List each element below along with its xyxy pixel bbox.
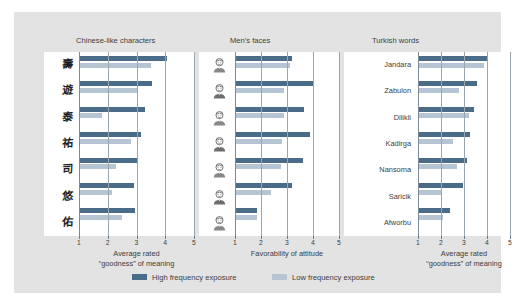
gridline-5 [339,52,340,236]
gridline-1 [418,52,419,236]
bar-high-frequency [79,183,134,188]
tick-label-2: 2 [106,239,110,246]
legend-swatch-low-frequency [272,274,287,280]
x-axis-ticks: 12345 [235,236,339,248]
gridline-3 [464,52,465,236]
tick-label-4: 4 [311,239,315,246]
tick-label-2: 2 [259,239,263,246]
x-axis-title-line1: Favorability of attitude [235,249,339,259]
chinese-character-icon: 悠 [62,190,74,202]
bar-low-frequency [418,139,453,144]
bar-high-frequency [418,132,470,137]
bar-low-frequency [418,164,457,169]
gridline-4 [487,52,488,236]
tick-label-1: 1 [416,239,420,246]
face-portrait-icon [211,109,228,126]
tick-label-4: 4 [485,239,489,246]
category-label-nansoma: Nansoma [379,165,411,174]
category-label-saricik: Saricik [389,192,411,201]
bar-high-frequency [418,81,477,86]
panel-mens-faces [199,52,339,236]
bar-high-frequency [79,56,167,61]
bar-low-frequency [418,63,484,68]
chinese-character-icon: 遊 [62,85,74,97]
gridline-3 [287,52,288,236]
panel-turkish-words: JandaraZabulonDilikliKadirgaNansomaSaric… [344,52,510,236]
face-portrait-icon [211,188,228,205]
category-label-jandara: Jandara [384,60,411,69]
face-portrait-icon [211,56,228,73]
plot-area-turkish [418,52,510,236]
bar-low-frequency [79,164,116,169]
bar-high-frequency [418,56,488,61]
gridline-2 [261,52,262,236]
x-axis-ticks: 12345 [79,236,194,248]
x-axis-title-line2: “goodness” of meaning [418,259,510,269]
bar-low-frequency [418,190,441,195]
bar-low-frequency [235,139,282,144]
bar-low-frequency [235,190,271,195]
face-portrait-icon [211,161,228,178]
tick-label-4: 4 [163,239,167,246]
panel-title-turkish-words: Turkish words [372,36,419,45]
tick-label-1: 1 [77,239,81,246]
category-gutter-turkish: JandaraZabulonDilikliKadirgaNansomaSaric… [344,52,418,236]
bar-high-frequency [418,158,467,163]
bar-high-frequency [235,132,310,137]
panel-chinese-like-characters: 壽遊泰祐司悠佑 [44,52,194,236]
panel-title-chinese-like-characters: Chinese-like characters [76,36,155,45]
plot-area-faces [235,52,339,236]
gridline-4 [313,52,314,236]
bar-high-frequency [235,158,303,163]
x-axis-title-line1: Average rated [418,249,510,259]
bar-low-frequency [235,88,284,93]
legend-label-high-frequency: High frequency exposure [152,273,236,282]
tick-label-3: 3 [462,239,466,246]
gridline-5 [194,52,195,236]
bar-high-frequency [235,107,304,112]
tick-label-5: 5 [337,239,341,246]
face-portrait-icon [211,135,228,152]
gridline-1 [235,52,236,236]
legend-label-low-frequency: Low frequency exposure [292,273,375,282]
bar-low-frequency [235,164,281,169]
x-axis-title-line2: “goodness” of meaning [79,259,194,269]
gridline-3 [137,52,138,236]
bar-low-frequency [79,113,102,118]
category-label-dilikli: Dilikli [394,113,411,122]
figure-container: Chinese-like characters Men's faces Turk… [14,12,501,293]
chinese-character-icon: 壽 [62,59,74,71]
x-axis-title: Average rated“goodness” of meaning [79,249,194,268]
tick-label-1: 1 [233,239,237,246]
x-axis-title-line1: Average rated [79,249,194,259]
category-gutter-chinese: 壽遊泰祐司悠佑 [44,52,79,236]
tick-label-5: 5 [192,239,196,246]
category-gutter-faces [199,52,235,236]
category-label-zabulon: Zabulon [384,86,411,95]
bar-low-frequency [418,113,469,118]
tick-label-3: 3 [135,239,139,246]
chinese-character-icon: 佑 [62,217,74,229]
chinese-character-icon: 司 [62,164,74,176]
bar-high-frequency [79,132,141,137]
gridline-1 [79,52,80,236]
bar-high-frequency [235,56,292,61]
category-label-kadirga: Kadirga [386,139,411,148]
face-portrait-icon [211,214,228,231]
gridline-4 [165,52,166,236]
bar-low-frequency [79,139,131,144]
gridline-2 [108,52,109,236]
legend: High frequency exposure Low frequency ex… [14,271,501,285]
bar-high-frequency [79,107,145,112]
legend-item-high-frequency: High frequency exposure [132,271,236,283]
bar-low-frequency [235,63,290,68]
bar-low-frequency [79,215,122,220]
bar-high-frequency [418,107,474,112]
chinese-character-icon: 泰 [62,111,74,123]
bar-high-frequency [235,208,257,213]
chinese-character-icon: 祐 [62,138,74,150]
bar-low-frequency [418,88,459,93]
bar-high-frequency [235,183,292,188]
panel-title-mens-faces: Men's faces [230,36,270,45]
legend-swatch-high-frequency [132,274,147,280]
